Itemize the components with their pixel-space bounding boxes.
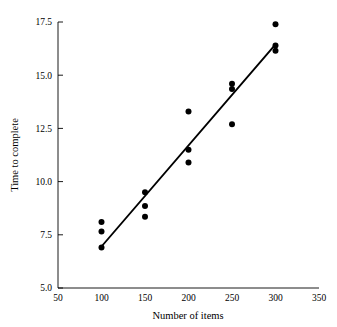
data-point-group	[99, 21, 279, 250]
x-tick-label: 50	[53, 293, 63, 303]
regression-line	[102, 44, 276, 246]
y-tick-label: 7.5	[40, 230, 52, 240]
data-point	[273, 42, 279, 48]
data-point	[273, 21, 279, 27]
x-tick-label: 300	[268, 293, 283, 303]
x-tick-label: 100	[94, 293, 109, 303]
x-axis-tick-labels: 50100150200250300350	[53, 293, 326, 303]
x-tick-label: 150	[138, 293, 153, 303]
data-point	[229, 121, 235, 127]
data-point	[99, 219, 105, 225]
y-tick-label: 12.5	[35, 124, 52, 134]
data-point	[142, 214, 148, 220]
data-point	[186, 108, 192, 114]
y-axis-tick-labels: 5.07.510.012.515.017.5	[35, 17, 52, 293]
y-axis-tick-marks	[58, 22, 63, 288]
data-point	[273, 48, 279, 54]
x-tick-label: 350	[312, 293, 327, 303]
data-point	[142, 189, 148, 195]
x-tick-label: 250	[225, 293, 240, 303]
y-tick-label: 10.0	[35, 177, 52, 187]
y-tick-label: 15.0	[35, 71, 52, 81]
y-tick-label: 17.5	[35, 17, 52, 27]
data-point	[229, 86, 235, 92]
data-point	[142, 203, 148, 209]
plot-canvas: 5.07.510.012.515.017.5 50100150200250300…	[0, 0, 337, 327]
data-point	[229, 81, 235, 87]
x-tick-label: 200	[181, 293, 196, 303]
data-point	[99, 245, 105, 251]
data-point	[99, 229, 105, 235]
data-point	[186, 159, 192, 165]
scatter-plot-figure: 5.07.510.012.515.017.5 50100150200250300…	[0, 0, 337, 327]
y-axis-title: Time to complete	[9, 118, 20, 192]
y-tick-label: 5.0	[40, 283, 52, 293]
x-axis-title: Number of items	[152, 310, 223, 321]
axis-frame	[58, 22, 319, 288]
data-point	[186, 147, 192, 153]
